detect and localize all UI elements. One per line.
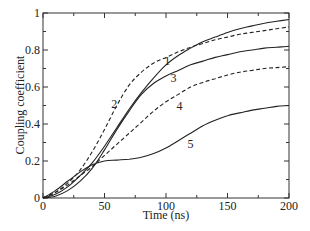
y-tick-label: 0.6 bbox=[25, 80, 40, 94]
x-tick-label: 0 bbox=[40, 199, 46, 213]
y-tick-labels: 00.20.40.60.81 bbox=[25, 6, 40, 205]
x-tick-label: 150 bbox=[219, 199, 237, 213]
curve-label-1: 1 bbox=[164, 54, 170, 68]
y-tick-label: 0.2 bbox=[25, 154, 40, 168]
x-tick-label: 50 bbox=[99, 199, 111, 213]
line-chart: 050100150200 00.20.40.60.81 12345 Time (… bbox=[0, 0, 310, 231]
y-tick-label: 0.4 bbox=[25, 117, 40, 131]
y-tick-label: 0.8 bbox=[25, 43, 40, 57]
y-tick-label: 0 bbox=[34, 191, 40, 205]
curve-5 bbox=[43, 106, 289, 199]
curve-1 bbox=[43, 20, 289, 199]
curve-label-4: 4 bbox=[177, 99, 183, 113]
x-axis-label: Time (ns) bbox=[143, 208, 190, 222]
curve-label-2: 2 bbox=[111, 97, 117, 111]
curve-label-5: 5 bbox=[188, 137, 194, 151]
curve-label-3: 3 bbox=[170, 71, 176, 85]
y-axis-label: Coupling coefficient bbox=[13, 55, 27, 154]
curves bbox=[43, 20, 289, 199]
x-tick-label: 200 bbox=[280, 199, 298, 213]
y-tick-label: 1 bbox=[34, 6, 40, 20]
curve-4 bbox=[43, 67, 289, 198]
